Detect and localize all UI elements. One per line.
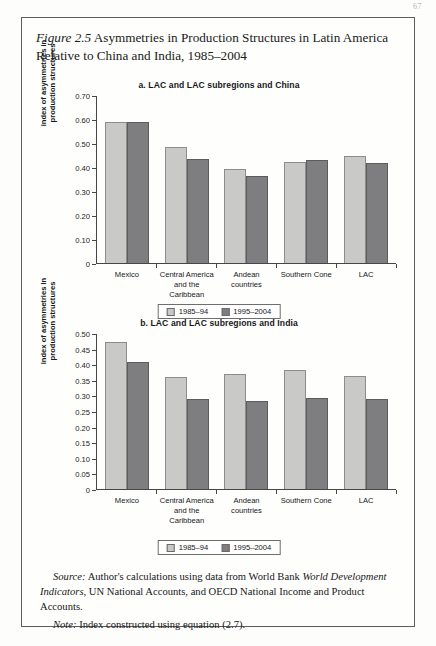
y-tick xyxy=(92,264,96,265)
chart-a-legend: 1985–94 1995–2004 xyxy=(158,304,281,319)
chart-b-legend: 1985–94 1995–2004 xyxy=(158,540,281,555)
y-tick xyxy=(92,334,96,335)
legend-label-1995-2004: 1995–2004 xyxy=(233,543,271,552)
legend-swatch-icon-1985-94 xyxy=(167,544,175,552)
bar xyxy=(187,399,209,489)
y-tick xyxy=(92,428,96,429)
x-divider xyxy=(276,264,277,268)
bar-group xyxy=(336,96,396,263)
y-tick xyxy=(92,474,96,475)
x-axis-label: LAC xyxy=(336,270,396,300)
y-tick xyxy=(92,192,96,193)
y-tick-label: 0 xyxy=(86,486,90,495)
chart-b: b. LAC and LAC subregions and India inde… xyxy=(36,318,402,551)
y-tick-label: 0.45 xyxy=(75,345,90,354)
x-axis-label: Southern Cone xyxy=(276,496,336,526)
y-tick-label: 0.20 xyxy=(75,423,90,432)
y-tick-label: 0.05 xyxy=(75,470,90,479)
bar-group xyxy=(217,334,277,489)
note-text: Index constructed using equation (2.7). xyxy=(77,619,246,630)
x-divider xyxy=(396,264,397,268)
y-tick xyxy=(92,459,96,460)
x-divider xyxy=(336,490,337,494)
legend-item-1995-2004: 1995–2004 xyxy=(221,307,271,316)
note-label: Note: xyxy=(53,619,77,630)
legend-item-1995-2004: 1995–2004 xyxy=(221,543,271,552)
bar xyxy=(224,374,246,489)
bar xyxy=(105,122,127,263)
bar xyxy=(105,342,127,489)
chart-a-plot-area: 00.100.200.300.400.500.600.70 xyxy=(96,96,396,264)
legend-swatch-icon-1985-94 xyxy=(167,308,175,316)
y-tick-label: 0.60 xyxy=(75,116,90,125)
x-axis-label: Andean countries xyxy=(217,496,277,526)
legend-label-1995-2004: 1995–2004 xyxy=(233,307,271,316)
x-divider xyxy=(216,490,217,494)
x-axis-label: Mexico xyxy=(97,496,157,526)
y-tick xyxy=(92,443,96,444)
legend-label-1985-94: 1985–94 xyxy=(179,543,209,552)
bar xyxy=(224,169,246,263)
x-divider xyxy=(336,264,337,268)
bar xyxy=(165,147,187,263)
bar-group xyxy=(157,96,217,263)
bar-group xyxy=(97,334,157,489)
chart-b-plot-area: 00.050.100.150.200.250.300.350.400.450.5… xyxy=(96,334,396,490)
y-tick-label: 0.40 xyxy=(75,164,90,173)
y-axis-label-line1: index of asymmetries in xyxy=(39,266,48,376)
y-tick-label: 0.10 xyxy=(75,236,90,245)
y-tick-label: 0.15 xyxy=(75,439,90,448)
source-text: Author's calculations using data from Wo… xyxy=(86,571,303,582)
chart-b-bars xyxy=(97,334,396,489)
bar xyxy=(284,162,306,263)
y-tick-label: 0 xyxy=(86,260,90,269)
x-axis-label: Central America and the Caribbean xyxy=(157,496,217,526)
y-tick xyxy=(92,144,96,145)
bar xyxy=(284,370,306,489)
bar xyxy=(366,399,388,489)
legend-item-1985-94: 1985–94 xyxy=(167,543,209,552)
bar xyxy=(306,160,328,263)
y-tick-label: 0.20 xyxy=(75,212,90,221)
y-tick-label: 0.50 xyxy=(75,140,90,149)
chart-a-bars xyxy=(97,96,396,263)
y-tick-label: 0.35 xyxy=(75,376,90,385)
y-tick-label: 0.25 xyxy=(75,408,90,417)
y-tick xyxy=(92,350,96,351)
bar xyxy=(246,401,268,489)
figure-frame: Figure 2.5 Asymmetries in Production Str… xyxy=(21,17,415,627)
figure-title: Figure 2.5 Asymmetries in Production Str… xyxy=(36,29,396,64)
x-axis-label: Central America and the Caribbean xyxy=(157,270,217,300)
x-divider xyxy=(216,264,217,268)
bar xyxy=(187,159,209,263)
page-number: 67 xyxy=(413,2,422,11)
bar-group xyxy=(276,96,336,263)
source-text-2: , UN National Accounts, and OECD Nationa… xyxy=(40,586,365,612)
y-axis-label-line2: production structures xyxy=(48,266,57,376)
x-divider xyxy=(156,264,157,268)
bar xyxy=(127,122,149,263)
chart-a-y-axis-label: index of asymmetries in production struc… xyxy=(39,28,59,138)
bar xyxy=(165,377,187,489)
bar xyxy=(306,398,328,489)
chart-a-title: a. LAC and LAC subregions and China xyxy=(36,80,402,90)
x-axis-label: Southern Cone xyxy=(276,270,336,300)
note-note: Note: Index constructed using equation (… xyxy=(40,617,396,632)
y-axis-label-line1: index of asymmetries in xyxy=(39,28,48,138)
y-tick-label: 0.50 xyxy=(75,330,90,339)
chart-a: a. LAC and LAC subregions and China inde… xyxy=(36,80,402,315)
source-note: Source: Author's calculations using data… xyxy=(40,569,396,614)
legend-label-1985-94: 1985–94 xyxy=(179,307,209,316)
y-tick-label: 0.70 xyxy=(75,92,90,101)
legend-swatch-icon-1995-2004 xyxy=(221,544,229,552)
x-divider xyxy=(396,490,397,494)
y-tick-label: 0.10 xyxy=(75,454,90,463)
x-divider xyxy=(276,490,277,494)
y-tick xyxy=(92,240,96,241)
x-axis-label: Andean countries xyxy=(217,270,277,300)
x-axis-label: Mexico xyxy=(97,270,157,300)
legend-item-1985-94: 1985–94 xyxy=(167,307,209,316)
chart-a-x-labels: MexicoCentral America and the CaribbeanA… xyxy=(97,270,396,300)
y-tick xyxy=(92,381,96,382)
bar-group xyxy=(336,334,396,489)
